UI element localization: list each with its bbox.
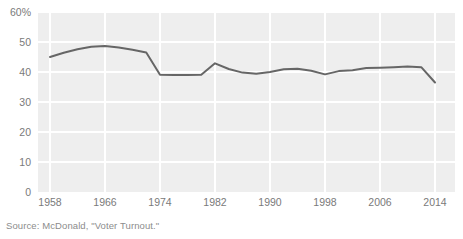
y-tick-label: 20 <box>19 126 31 138</box>
source-note: Source: McDonald, "Voter Turnout." <box>6 220 159 231</box>
x-tick-label: 2014 <box>423 196 447 208</box>
chart-canvas: 60%5040302010019581966197419821990199820… <box>0 0 463 239</box>
x-axis-tick-labels: 19581966197419821990199820062014 <box>38 196 447 208</box>
x-tick-label: 1966 <box>93 196 117 208</box>
y-tick-label: 0 <box>25 186 31 198</box>
y-tick-label: 50 <box>19 36 31 48</box>
y-tick-label: 30 <box>19 96 31 108</box>
x-tick-label: 1990 <box>258 196 282 208</box>
y-axis-tick-labels: 60%50403020100 <box>10 6 31 198</box>
x-tick-label: 1974 <box>148 196 172 208</box>
x-tick-label: 1982 <box>203 196 227 208</box>
y-tick-label: 60% <box>10 6 31 18</box>
voter-turnout-chart-figure: 60%5040302010019581966197419821990199820… <box>0 0 463 239</box>
x-tick-label: 2006 <box>368 196 392 208</box>
x-tick-label: 1998 <box>313 196 337 208</box>
y-tick-label: 10 <box>19 156 31 168</box>
y-tick-label: 40 <box>19 66 31 78</box>
x-tick-label: 1958 <box>38 196 62 208</box>
